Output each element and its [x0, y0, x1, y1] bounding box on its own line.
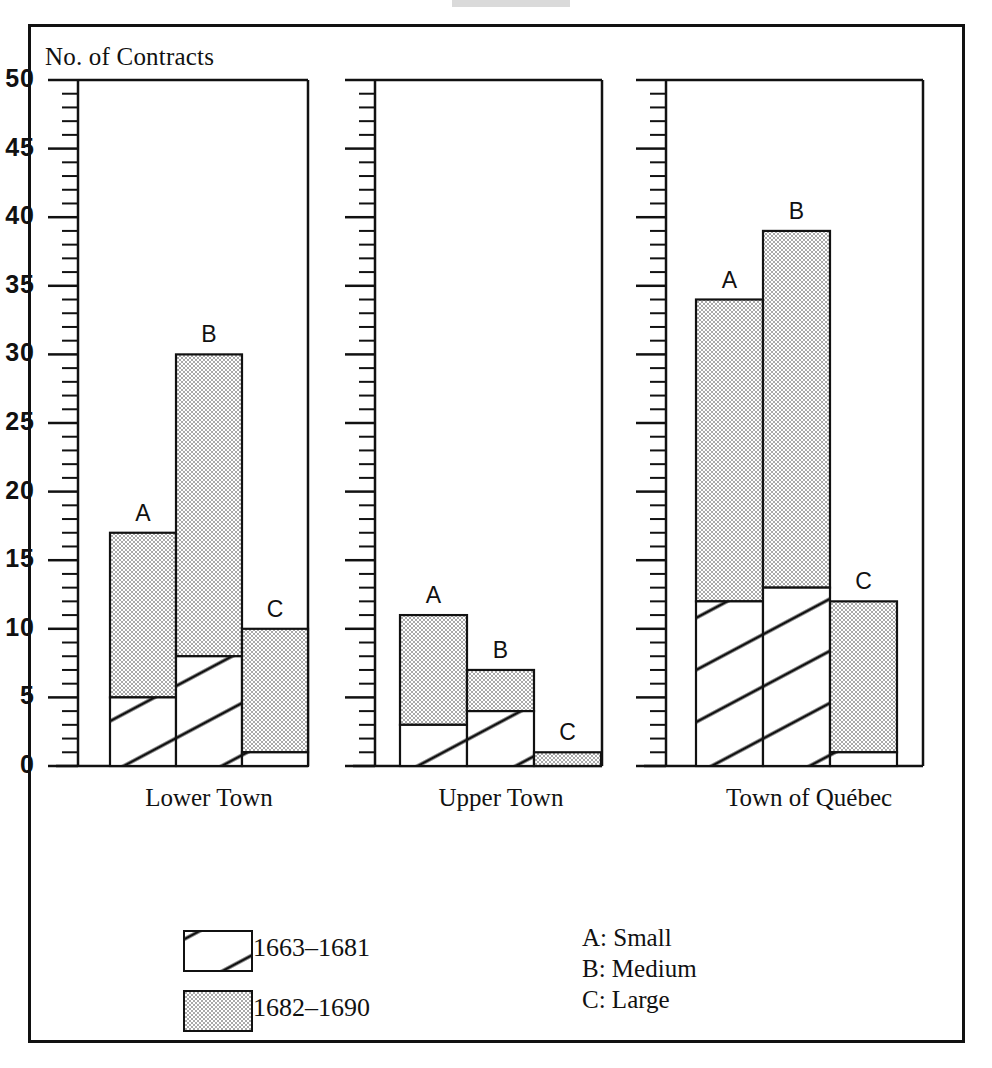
bar-0-B-segment-1663-1681: [176, 656, 242, 766]
y-tick-label-5: 5: [0, 681, 35, 710]
bar-letter-0-B: B: [176, 321, 242, 348]
y-tick-label-10: 10: [0, 613, 35, 642]
bar-2-B-segment-1663-1681: [763, 588, 830, 766]
bar-0-C-segment-1663-1681: [242, 752, 308, 766]
bar-1-B-segment-1663-1681: [467, 711, 534, 766]
y-tick-label-30: 30: [0, 338, 35, 367]
bar-letter-1-C: C: [534, 719, 601, 746]
y-tick-label-0: 0: [0, 750, 35, 779]
panel-label-0: Lower Town: [49, 784, 369, 812]
panel-label-2: Town of Québec: [649, 784, 969, 812]
bar-1-B-segment-1682-1690: [467, 670, 534, 711]
scan-artifact: [452, 0, 570, 7]
bar-2-A-segment-1663-1681: [696, 601, 763, 766]
bars-layer: [110, 231, 897, 766]
y-tick-label-25: 25: [0, 407, 35, 436]
bar-0-A-segment-1663-1681: [110, 697, 176, 766]
y-tick-label-35: 35: [0, 270, 35, 299]
bar-letter-0-C: C: [242, 596, 308, 623]
bar-1-C-segment-1682-1690: [534, 752, 601, 766]
bar-letter-0-A: A: [110, 500, 176, 527]
bar-1-A-segment-1663-1681: [400, 725, 467, 766]
bar-letter-2-B: B: [763, 198, 830, 225]
bar-letter-2-A: A: [696, 267, 763, 294]
bar-letter-2-C: C: [830, 568, 897, 595]
bar-letter-1-B: B: [467, 637, 534, 664]
bar-letter-1-A: A: [400, 582, 467, 609]
y-tick-label-15: 15: [0, 544, 35, 573]
y-tick-label-50: 50: [0, 64, 35, 93]
bar-0-A-segment-1682-1690: [110, 533, 176, 698]
bar-1-A-segment-1682-1690: [400, 615, 467, 725]
bar-2-B-segment-1682-1690: [763, 231, 830, 588]
bar-2-A-segment-1682-1690: [696, 300, 763, 602]
bar-0-B-segment-1682-1690: [176, 354, 242, 656]
panel-label-1: Upper Town: [341, 784, 661, 812]
figure-frame: No. of Contracts 05101520253035404550 AB…: [28, 24, 965, 1043]
y-tick-label-45: 45: [0, 133, 35, 162]
bar-2-C-segment-1682-1690: [830, 601, 897, 752]
bar-0-C-segment-1682-1690: [242, 629, 308, 752]
y-tick-label-20: 20: [0, 476, 35, 505]
y-tick-label-40: 40: [0, 201, 35, 230]
bar-2-C-segment-1663-1681: [830, 752, 897, 766]
chart-plot-area: [31, 27, 968, 1046]
